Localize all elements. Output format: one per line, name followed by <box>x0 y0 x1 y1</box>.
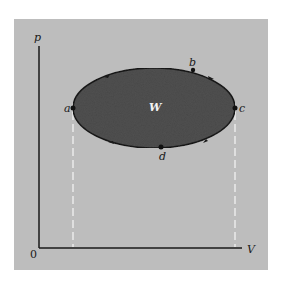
pv-diagram: p V 0 a b c d W <box>0 0 285 286</box>
x-axis-label: V <box>247 243 256 256</box>
point-label-b: b <box>189 56 196 69</box>
point-c <box>233 106 238 111</box>
point-label-d: d <box>159 150 166 163</box>
work-region-label: W <box>149 101 163 114</box>
y-axis-label: p <box>34 31 41 44</box>
arrow-top-right-icon <box>208 76 214 80</box>
origin-label: 0 <box>30 248 37 261</box>
point-label-c: c <box>239 102 245 115</box>
point-d <box>159 145 164 150</box>
point-a <box>71 106 76 111</box>
point-label-a: a <box>64 102 71 115</box>
